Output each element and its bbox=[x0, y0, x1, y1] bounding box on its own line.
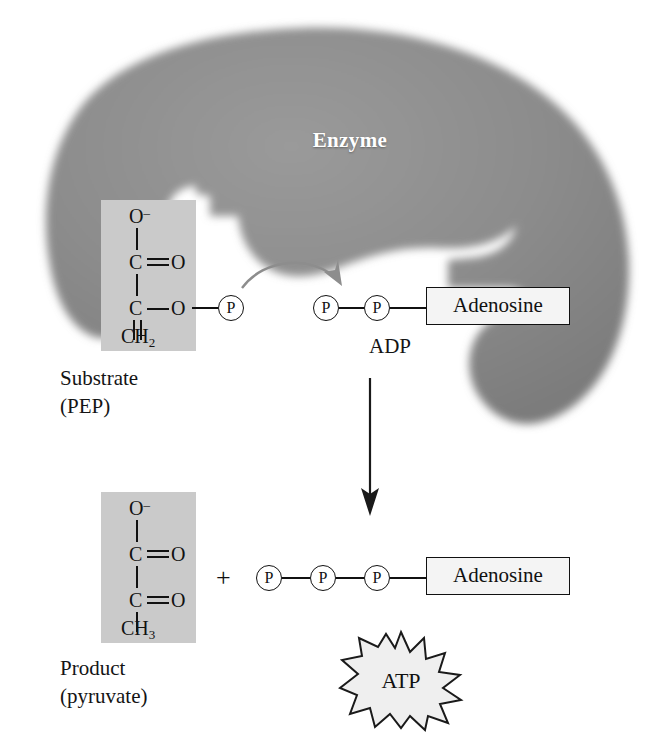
product-carbon-1: C bbox=[129, 544, 142, 564]
substrate-double-bond-lower bbox=[147, 264, 169, 266]
phosphate-transfer-arrow bbox=[238, 252, 358, 314]
product-bond-o-c1 bbox=[136, 520, 138, 542]
substrate-bond-c1-c2 bbox=[136, 274, 138, 296]
atp-link-2 bbox=[336, 577, 364, 579]
substrate-methylene: CH2 bbox=[121, 326, 155, 349]
adp-label: ADP bbox=[340, 333, 440, 361]
product-caption-line1: Product bbox=[60, 655, 147, 683]
adp-link-2 bbox=[390, 307, 426, 309]
product-bond-c1-c2 bbox=[136, 566, 138, 588]
atp-phosphate-2: P bbox=[310, 565, 336, 591]
product-carbon-2: C bbox=[129, 590, 142, 610]
substrate-bond-o-c1 bbox=[136, 228, 138, 250]
atp-link-1 bbox=[282, 577, 310, 579]
product-methyl: CH3 bbox=[121, 618, 155, 641]
adp-link-1 bbox=[339, 307, 364, 309]
atp-phosphate-3: P bbox=[364, 565, 390, 591]
product-caption-line2: (pyruvate) bbox=[60, 683, 147, 711]
substrate-molecule-box: O– C O C O CH2 bbox=[101, 200, 196, 351]
product-molecule-box: O– C O C O CH3 bbox=[101, 492, 196, 643]
substrate-double-bond-upper bbox=[147, 258, 169, 260]
substrate-level-phosphorylation-figure: Enzyme O– C O C O bbox=[0, 0, 666, 740]
substrate-carbon-2: C bbox=[129, 298, 142, 318]
substrate-phosphate-bond bbox=[192, 307, 218, 309]
substrate-caption-line2: (PEP) bbox=[60, 393, 138, 421]
substrate-top-oxygen: O– bbox=[129, 206, 150, 226]
atp-link-3 bbox=[390, 577, 426, 579]
adp-adenosine-box: Adenosine bbox=[426, 287, 570, 325]
atp-starburst: ATP bbox=[338, 628, 464, 732]
reaction-arrow bbox=[350, 378, 390, 518]
atp-adenosine-box: Adenosine bbox=[426, 557, 570, 595]
substrate-caption: Substrate (PEP) bbox=[60, 365, 138, 420]
product-carbonyl-oxygen-1: O bbox=[171, 544, 185, 564]
product-double-bond-1-upper bbox=[147, 550, 169, 552]
substrate-carbon-1: C bbox=[129, 252, 142, 272]
atp-starburst-label: ATP bbox=[381, 668, 420, 693]
product-caption: Product (pyruvate) bbox=[60, 655, 147, 710]
product-top-oxygen: O– bbox=[129, 498, 150, 518]
atp-phosphate-1: P bbox=[256, 565, 282, 591]
adp-phosphate-1: P bbox=[313, 295, 339, 321]
substrate-bond-c2-o bbox=[147, 308, 169, 310]
substrate-caption-line1: Substrate bbox=[60, 365, 138, 393]
plus-operator: + bbox=[216, 563, 231, 593]
enzyme-label: Enzyme bbox=[280, 128, 420, 153]
adp-phosphate-2: P bbox=[364, 295, 390, 321]
substrate-ester-oxygen: O bbox=[171, 298, 185, 318]
product-double-bond-2-upper bbox=[147, 596, 169, 598]
substrate-carbonyl-oxygen: O bbox=[171, 252, 185, 272]
product-carbonyl-oxygen-2: O bbox=[171, 590, 185, 610]
product-double-bond-1-lower bbox=[147, 556, 169, 558]
product-double-bond-2-lower bbox=[147, 602, 169, 604]
